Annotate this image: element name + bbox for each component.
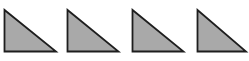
- right-triangle-1: [5, 10, 57, 52]
- right-triangle-2: [68, 10, 119, 52]
- right-triangle-3: [133, 10, 184, 52]
- triangles-diagram: [0, 0, 249, 61]
- right-triangle-4: [198, 10, 247, 52]
